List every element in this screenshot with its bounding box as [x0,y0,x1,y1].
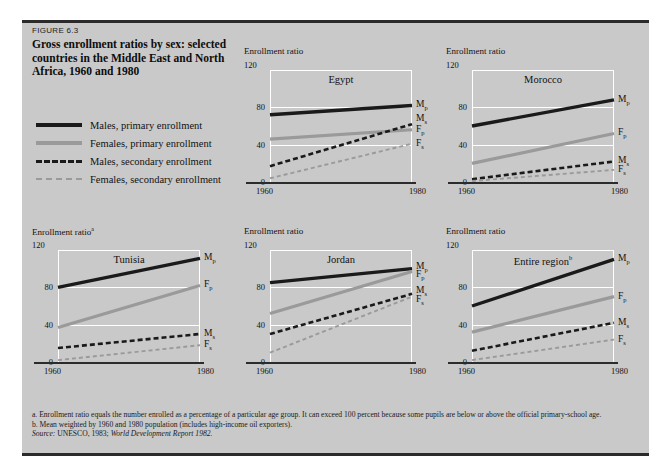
series-end-label-Fp: Fp [416,269,425,281]
series-end-label-Fp: Fp [416,124,425,136]
series-end-label-Ms: Ms [618,317,629,329]
y-axis-max-label: 120 [446,60,459,70]
legend-item-females-primary: Females, primary enrollment [36,134,251,152]
series-line-Fs [58,345,200,360]
legend-item-females-secondary: Females, secondary enrollment [36,170,251,188]
plot-area: 04080JordanMpFpMsFs19601980 [270,250,412,362]
footnote-b: b. Mean weighted by 1960 and 1980 popula… [32,420,642,430]
legend-item-males-primary: Males, primary enrollment [36,116,251,134]
figure-panel: FIGURE 6.3 Gross enrollment ratios by se… [22,20,649,456]
y-axis-caption: Enrollment ratioa [32,226,94,237]
series-end-label-Ms: Ms [204,328,215,340]
y-axis-max-label: 120 [446,240,459,250]
series-end-label-Fp: Fp [618,290,627,302]
chart-panel-jordan: Enrollment ratio12004080JordanMpFpMsFs19… [244,226,420,402]
x-tick-label-end: 1980 [611,366,628,376]
source-prefix: Source: [32,429,55,438]
y-axis-caption: Enrollment ratio [446,226,505,236]
chart-panel-entire-region: Enrollment ratio12004080Entire regionbMp… [446,226,622,402]
series-end-label-subscript: s [421,142,424,149]
legend-swatch-males-primary [36,120,82,130]
figure-number: FIGURE 6.3 [32,26,79,35]
series-end-label-Fs: Fs [416,294,424,306]
footnote-a: a. Enrollment ratio equals the number en… [32,410,642,420]
figure-top-rule [22,20,649,23]
series-lines [270,250,412,362]
series-end-label-subscript: s [623,338,626,345]
y-axis-max-label: 120 [244,240,257,250]
plot-area: 04080MoroccoMpFpMsFs19601980 [472,70,614,182]
series-lines [472,70,614,182]
series-end-label-subscript: s [424,117,427,124]
y-axis-caption: Enrollment ratio [244,226,303,236]
series-end-label-subscript: s [623,169,626,176]
series-end-label-subscript: p [212,257,215,264]
legend-swatch-females-secondary [36,174,82,184]
x-tick-label-end: 1980 [409,186,426,196]
series-line-Fs [472,340,614,361]
series-end-label-Fp: Fp [618,127,627,139]
series-end-label-subscript: s [421,299,424,306]
x-axis-baseline [246,362,416,364]
series-line-Fp [270,271,412,313]
figure-title: Gross enrollment ratios by sex: selected… [32,38,257,79]
y-axis-caption: Enrollment ratio [244,46,303,56]
y-axis-caption: Enrollment ratio [446,46,505,56]
series-end-label-subscript: s [626,160,629,167]
series-end-label-subscript: p [424,104,427,111]
y-tick-label: 40 [459,320,468,330]
series-line-Mp [472,100,614,126]
y-tick-label: 80 [459,282,468,292]
series-line-Mp [270,269,412,283]
series-line-Fs [270,297,412,353]
legend-item-males-secondary: Males, secondary enrollment [36,152,251,170]
series-end-label-subscript: p [623,132,626,139]
series-line-Fp [58,285,200,327]
series-line-Fs [270,144,412,179]
series-line-Mp [472,259,614,306]
x-axis-baseline [448,182,618,184]
series-end-label-Mp: Mp [618,253,630,265]
series-end-label-subscript: s [626,322,629,329]
chart-panel-egypt: Enrollment ratio12004080EgyptMpFpMsFs196… [244,46,420,222]
series-end-label-subscript: p [424,266,427,273]
series-end-label-subscript: p [209,284,212,291]
series-end-label-subscript: p [626,99,629,106]
legend-label-males-primary: Males, primary enrollment [90,120,202,131]
series-end-label-Fs: Fs [618,164,626,176]
x-tick-label-end: 1980 [197,366,214,376]
plot-area: 04080Entire regionbMpFpMsFs19601980 [472,250,614,362]
legend-label-females-primary: Females, primary enrollment [90,138,212,149]
source-title: World Development Report 1982. [111,429,213,438]
x-tick-label-start: 1960 [256,186,273,196]
plot-area: 04080TunisiaMpFpMsFs19601980 [58,250,200,362]
plot-area: 04080EgyptMpFpMsFs19601980 [270,70,412,182]
series-end-label-Fs: Fs [618,333,626,345]
footnotes: a. Enrollment ratio equals the number en… [32,410,642,439]
x-tick-label-start: 1960 [44,366,61,376]
series-line-Ms [270,294,412,334]
series-end-label-Fs: Fs [204,339,212,351]
series-line-Ms [472,161,614,179]
series-end-label-Fp: Fp [204,279,213,291]
x-axis-baseline [246,182,416,184]
legend-swatch-males-secondary [36,156,82,166]
y-tick-label: 40 [459,140,468,150]
x-axis-baseline [448,362,618,364]
legend-label-females-secondary: Females, secondary enrollment [90,174,221,185]
series-end-label-Mp: Mp [618,94,630,106]
series-end-label-Fs: Fs [416,138,424,150]
series-line-Mp [58,258,200,287]
chart-panel-tunisia: Enrollment ratioa12004080TunisiaMpFpMsFs… [32,226,208,402]
x-tick-label-start: 1960 [256,366,273,376]
series-end-label-subscript: p [421,128,424,135]
legend-label-males-secondary: Males, secondary enrollment [90,156,212,167]
series-line-Ms [58,334,200,348]
series-end-label-subscript: p [421,274,424,281]
y-axis-max-label: 120 [244,60,257,70]
x-tick-label-start: 1960 [458,186,475,196]
y-tick-label: 40 [45,320,54,330]
series-end-label-Ms: Ms [416,112,427,124]
series-end-label-subscript: p [623,295,626,302]
y-tick-label: 40 [257,140,266,150]
